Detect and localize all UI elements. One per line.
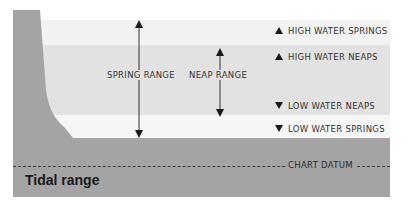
spring-range-label: SPRING RANGE (105, 70, 177, 80)
level-low-water-springs: LOW WATER SPRINGS (275, 124, 385, 134)
neap-range-arrow (215, 48, 225, 117)
triangle-down-icon (275, 102, 283, 109)
triangle-up-icon (275, 27, 283, 34)
level-high-water-neaps: HIGH WATER NEAPS (275, 52, 378, 62)
neap-range-label: NEAP RANGE (187, 70, 249, 80)
level-high-water-springs: HIGH WATER SPRINGS (275, 26, 388, 36)
triangle-down-icon (275, 125, 283, 132)
chart-datum-label: CHART DATUM (286, 160, 355, 170)
tidal-range-diagram: CHART DATUM Tidal range SPRING RANGE NEA… (13, 10, 390, 197)
level-low-water-neaps: LOW WATER NEAPS (275, 101, 375, 111)
diagram-title: Tidal range (25, 172, 99, 188)
triangle-up-icon (275, 53, 283, 60)
cliff-icon (13, 10, 93, 150)
